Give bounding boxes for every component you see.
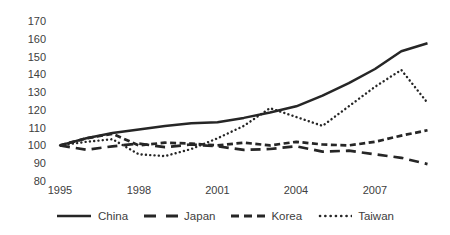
line-chart: 170 160 150 140 130 120 110 100 90 80 19… [0, 0, 450, 235]
legend-label-taiwan: Taiwan [358, 209, 394, 223]
legend-item-japan: Japan [144, 209, 215, 223]
china-line-sample-icon [56, 213, 92, 219]
legend-item-korea: Korea [231, 209, 302, 223]
legend-item-china: China [56, 209, 128, 223]
line-china [60, 43, 428, 145]
legend-label-china: China [98, 209, 128, 223]
plot-area [0, 0, 450, 235]
japan-line-sample-icon [144, 213, 178, 219]
legend-label-japan: Japan [184, 209, 215, 223]
korea-line-sample-icon [231, 213, 265, 219]
legend-item-taiwan: Taiwan [318, 209, 394, 223]
chart-legend: China Japan Korea Taiwan [0, 209, 450, 223]
line-japan [60, 144, 428, 165]
taiwan-line-sample-icon [318, 213, 352, 219]
legend-label-korea: Korea [271, 209, 302, 223]
